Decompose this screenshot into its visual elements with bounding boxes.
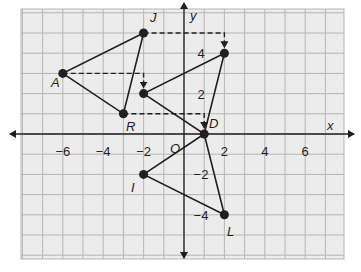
y-tick-label: −2 bbox=[194, 167, 209, 182]
point-label-r: R bbox=[126, 119, 135, 134]
origin-label: O bbox=[170, 141, 180, 156]
point-r bbox=[119, 109, 128, 118]
x-axis-label: x bbox=[326, 118, 334, 133]
x-tick-label: −4 bbox=[96, 144, 111, 159]
coordinate-plane: x y O A J R D I L −6−4−224642−2−4 bbox=[0, 0, 361, 272]
point-l bbox=[220, 210, 229, 219]
y-tick-label: 2 bbox=[197, 87, 204, 102]
point-p1 bbox=[220, 49, 229, 58]
y-tick-label: 4 bbox=[197, 46, 204, 61]
point-d bbox=[200, 130, 209, 139]
x-tick-label: −2 bbox=[136, 144, 151, 159]
y-tick-label: −4 bbox=[194, 208, 209, 223]
point-j bbox=[139, 29, 148, 38]
point-label-a: A bbox=[50, 75, 60, 90]
x-tick-label: 2 bbox=[221, 144, 228, 159]
point-label-l: L bbox=[227, 224, 234, 239]
point-label-d: D bbox=[209, 116, 218, 131]
x-tick-label: 6 bbox=[302, 144, 309, 159]
x-tick-label: 4 bbox=[261, 144, 268, 159]
point-i bbox=[139, 170, 148, 179]
point-label-i: I bbox=[131, 180, 135, 195]
point-p2 bbox=[139, 89, 148, 98]
point-label-j: J bbox=[149, 10, 157, 25]
x-tick-label: −6 bbox=[55, 144, 70, 159]
